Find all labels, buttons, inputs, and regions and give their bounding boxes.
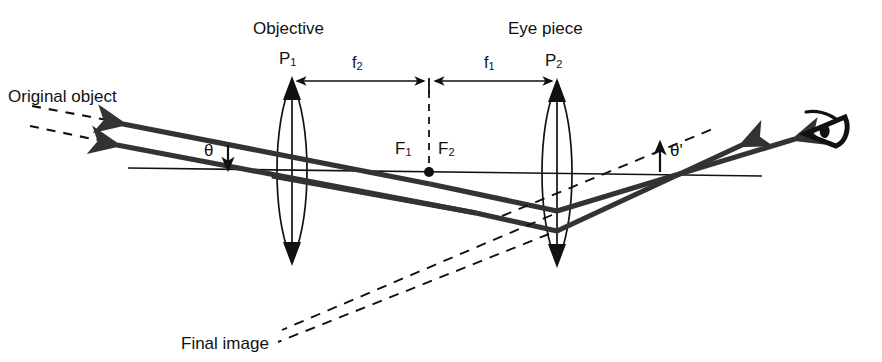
- f1-label: f1: [484, 55, 495, 72]
- capital-f2-label: F2: [438, 140, 455, 158]
- common-focal-point: [424, 167, 434, 177]
- objective-top-arrowhead: [283, 76, 301, 100]
- f2-label: f2: [352, 55, 363, 72]
- capital-f1-letter: F: [395, 139, 405, 158]
- optics-ray-diagram: [0, 0, 882, 362]
- capital-f1-subscript: 1: [405, 146, 411, 158]
- objective-exit-ray-lower: [272, 176, 476, 213]
- final-image-dashed-lower: [278, 234, 549, 342]
- figure-canvas: Objective Eye piece Original object Fina…: [0, 0, 882, 362]
- p1-label: P1: [279, 50, 296, 68]
- capital-f2-subscript: 2: [448, 146, 454, 158]
- eyepiece-bottom-arrowhead: [548, 244, 566, 268]
- p1-subscript: 1: [290, 56, 296, 68]
- theta-prime-label: θ': [670, 142, 683, 159]
- observer-eye-icon: [805, 111, 847, 146]
- f2-subscript: 2: [356, 60, 362, 72]
- final-image-label: Final image: [181, 335, 269, 352]
- eye-piece-label: Eye piece: [508, 20, 583, 37]
- p2-subscript: 2: [556, 58, 562, 70]
- object-ray-1-dashed-extension: [32, 106, 118, 122]
- original-object-label: Original object: [8, 88, 117, 105]
- objective-bottom-arrowhead: [283, 242, 301, 266]
- optical-axis: [128, 168, 762, 176]
- p1-letter: P: [279, 49, 290, 68]
- object-ray-2-dashed-extension: [30, 126, 112, 143]
- final-image-dashed-upper: [282, 215, 552, 330]
- f1-subscript: 1: [488, 60, 494, 72]
- exit-ray-lower: [557, 145, 742, 231]
- theta-label: θ: [204, 142, 213, 159]
- p2-label: P2: [545, 52, 562, 70]
- capital-f2-letter: F: [438, 139, 448, 158]
- objective-label: Objective: [253, 20, 324, 37]
- p2-letter: P: [545, 51, 556, 70]
- capital-f1-label: F1: [395, 140, 412, 158]
